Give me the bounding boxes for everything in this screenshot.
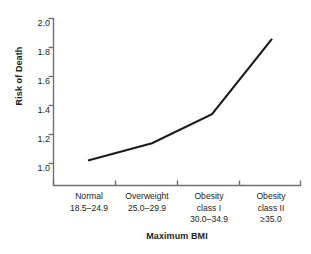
x-axis-title: Maximum BMI <box>53 231 301 241</box>
x-tick-line: class I <box>180 203 238 215</box>
x-tick-line: Obesity <box>242 191 300 203</box>
x-tick-line: Obesity <box>180 191 238 203</box>
x-axis-category-obesity-class-i: Obesity class I 30.0–34.9 <box>180 191 238 226</box>
x-axis-category-obesity-class-ii: Obesity class II ≥35.0 <box>242 191 300 226</box>
x-axis-category-normal: Normal 18.5–24.9 <box>59 191 119 214</box>
data-line-risk-of-death <box>88 39 272 161</box>
x-tick-line: 30.0–34.9 <box>180 214 238 226</box>
x-axis-category-overweight: Overweight 25.0–29.9 <box>116 191 178 214</box>
x-tick-line: ≥35.0 <box>242 214 300 226</box>
x-tick-line: class II <box>242 203 300 215</box>
x-tick-line: Overweight <box>116 191 178 203</box>
x-tick-line: Normal <box>59 191 119 203</box>
x-tick-line: 18.5–24.9 <box>59 203 119 215</box>
chart-container: Risk of Death 2.0 1.8 1.6 1.4 1.2 1.0 <box>0 0 311 254</box>
x-tick-line: 25.0–29.9 <box>116 203 178 215</box>
